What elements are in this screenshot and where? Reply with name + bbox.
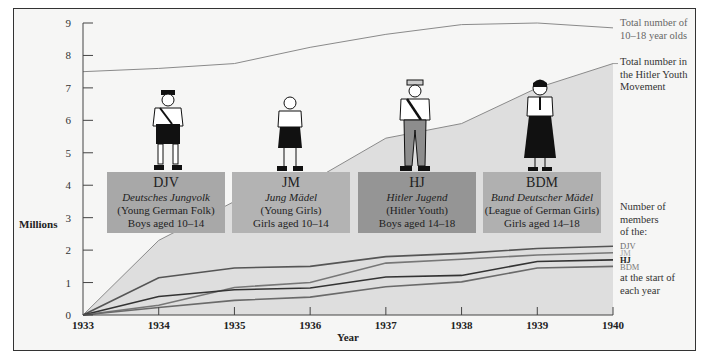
y-tick-label: 2 <box>66 244 72 256</box>
y-tick-label: 1 <box>66 277 72 289</box>
panel-abbr: HJ <box>358 175 476 191</box>
djv-boy-figure-icon <box>146 88 190 174</box>
annotation-line: of the: <box>620 226 666 239</box>
series-line-0 <box>83 23 613 72</box>
annotation-start-of-year: at the start of each year <box>620 272 675 297</box>
annotation-line: Number of <box>620 201 666 214</box>
panel-abbr: BDM <box>483 175 601 191</box>
panel-english-name: (Young Girls) <box>232 204 350 217</box>
panel-english-name: (League of German Girls) <box>483 204 601 217</box>
annotation-line: Total number of <box>620 17 688 30</box>
annotation-total-10-18: Total number of 10–18 year olds <box>620 17 688 42</box>
panel-bdm: BDM Bund Deutscher Mädel (League of Germ… <box>483 172 601 233</box>
panel-hj: HJ Hitler Jugend (Hitler Youth) Boys age… <box>358 172 476 233</box>
legend-bdm: BDM <box>620 263 639 272</box>
hj-boy-figure-icon <box>394 78 436 174</box>
annotation-line: each year <box>620 285 675 298</box>
panel-djv: DJV Deutsches Jungvolk (Young German Fol… <box>107 172 225 233</box>
x-tick-label: 1935 <box>223 319 246 331</box>
annotation-total-hitler-youth: Total number in the Hitler Youth Movemen… <box>620 56 687 94</box>
annotation-line: Movement <box>620 81 687 94</box>
panel-abbr: DJV <box>107 175 225 191</box>
panel-english-name: (Hitler Youth) <box>358 204 476 217</box>
x-tick-label: 1940 <box>602 319 625 331</box>
bdm-girl-figure-icon <box>520 78 560 174</box>
annotation-members: Number of members of the: <box>620 201 666 239</box>
panel-jm: JM Jung Mädel (Young Girls) Girls aged 1… <box>232 172 350 233</box>
x-axis-title: Year <box>337 331 359 343</box>
x-tick-label: 1939 <box>526 319 549 331</box>
y-tick-label: 4 <box>66 179 72 191</box>
y-tick-label: 0 <box>66 309 72 321</box>
panel-ages: Boys aged 10–14 <box>107 217 225 230</box>
jm-girl-figure-icon <box>273 94 307 174</box>
annotation-line: the Hitler Youth <box>620 69 687 82</box>
panel-ages: Girls aged 14–18 <box>483 217 601 230</box>
panel-ages: Boys aged 14–18 <box>358 217 476 230</box>
panel-german-name: Bund Deutscher Mädel <box>483 191 601 204</box>
x-tick-label: 1937 <box>375 319 398 331</box>
x-tick-label: 1934 <box>148 319 171 331</box>
x-tick-label: 1933 <box>72 319 95 331</box>
panel-ages: Girls aged 10–14 <box>232 217 350 230</box>
y-tick-label: 5 <box>66 147 72 159</box>
annotation-line: at the start of <box>620 272 675 285</box>
y-tick-label: 3 <box>66 212 72 224</box>
panel-german-name: Deutsches Jungvolk <box>107 191 225 204</box>
y-tick-label: 8 <box>66 49 72 61</box>
y-axis-title: Millions <box>19 218 58 230</box>
panel-abbr: JM <box>232 175 350 191</box>
x-tick-label: 1938 <box>451 319 474 331</box>
y-tick-label: 9 <box>66 17 72 29</box>
annotation-line: members <box>620 214 666 227</box>
annotation-line: Total number in <box>620 56 687 69</box>
y-tick-label: 6 <box>66 114 72 126</box>
annotation-line: 10–18 year olds <box>620 30 688 43</box>
panel-english-name: (Young German Folk) <box>107 204 225 217</box>
y-tick-label: 7 <box>66 82 72 94</box>
panel-german-name: Hitler Jugend <box>358 191 476 204</box>
panel-german-name: Jung Mädel <box>232 191 350 204</box>
x-tick-label: 1936 <box>299 319 322 331</box>
